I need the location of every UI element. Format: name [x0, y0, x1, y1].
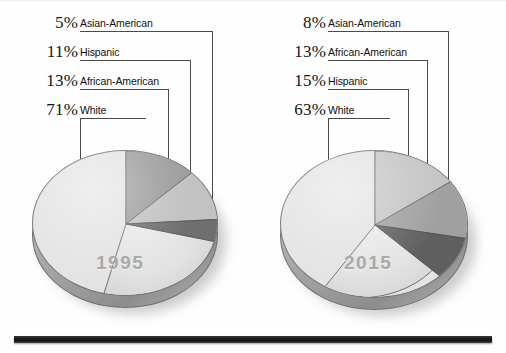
- category-label: Hispanic: [328, 75, 367, 87]
- pie-chart-1995: 1995: [30, 148, 226, 316]
- percent-value: 13%: [294, 42, 326, 62]
- category-label: Asian-American: [328, 17, 401, 29]
- leader-line-h: [328, 118, 390, 119]
- percent-value: 11%: [47, 42, 78, 62]
- leader-line-h: [80, 31, 212, 32]
- leader-line-h: [328, 89, 408, 90]
- year-label: 1995: [96, 252, 144, 274]
- category-label: White: [80, 104, 106, 116]
- percent-value: 63%: [294, 100, 326, 120]
- labels-2015: 8% Asian-American 13% African-American 1…: [280, 12, 490, 132]
- pie-surface: [32, 150, 218, 296]
- leader-line-h: [80, 89, 168, 90]
- leader-line-h: [328, 31, 448, 32]
- leader-line-h: [328, 60, 427, 61]
- pie-slices-svg: [33, 151, 218, 296]
- category-label: African-American: [80, 75, 159, 87]
- percent-value: 71%: [46, 100, 78, 120]
- category-label: White: [328, 104, 354, 116]
- percent-value: 15%: [294, 71, 326, 91]
- figure-canvas: 5% Asian-American 11% Hispanic 13% Afr: [0, 0, 506, 353]
- bottom-rule: [14, 336, 492, 343]
- pie-slices-svg: [281, 151, 468, 298]
- year-label: 2015: [344, 252, 392, 274]
- leader-line-h: [80, 118, 146, 119]
- leader-line-h: [80, 60, 190, 61]
- category-label: Hispanic: [80, 46, 119, 58]
- category-label: Asian-American: [80, 17, 153, 29]
- category-label: African-American: [328, 46, 407, 58]
- pie-surface: [280, 150, 468, 298]
- percent-value: 8%: [303, 13, 326, 33]
- percent-value: 13%: [46, 71, 78, 91]
- page-top-edge: [0, 0, 506, 2]
- labels-1995: 5% Asian-American 11% Hispanic 13% Afr: [32, 12, 232, 132]
- percent-value: 5%: [55, 13, 78, 33]
- pie-chart-2015: 2015: [278, 148, 478, 318]
